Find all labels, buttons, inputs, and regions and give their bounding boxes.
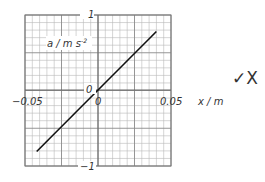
tick-cross-mark: ✓X [232, 68, 258, 88]
graph: 1 0 −1 a / m s-2 −0.05 0 0.05 x / m [0, 0, 265, 182]
x-tick-right: 0.05 [160, 96, 182, 107]
x-tick-zero: 0 [95, 96, 101, 107]
x-tick-left: −0.05 [12, 96, 43, 107]
x-axis-label: x / m [197, 96, 224, 107]
y-tick-zero: 0 [86, 84, 92, 95]
y-tick-bottom: −1 [80, 161, 95, 172]
y-tick-top: 1 [88, 9, 94, 20]
